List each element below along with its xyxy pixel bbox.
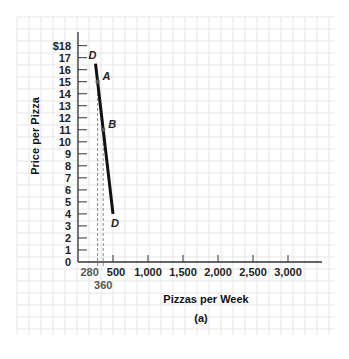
curve-label-start: D xyxy=(89,49,97,61)
x-tick-label: 3,000 xyxy=(274,266,302,278)
x-tick-label: 2,500 xyxy=(239,266,267,278)
y-tick-label: 4 xyxy=(65,208,72,220)
y-tick-label: 10 xyxy=(59,136,71,148)
y-tick-label: 7 xyxy=(65,172,71,184)
point-label-a: A xyxy=(102,70,111,82)
demand-chart: DD AB 01234567891011121314151617$185001,… xyxy=(0,0,349,359)
x-tick-label: 1,500 xyxy=(169,266,197,278)
point-b xyxy=(101,128,105,132)
y-tick-label: 9 xyxy=(65,148,71,160)
y-tick-label: 14 xyxy=(59,88,72,100)
y-tick-label: 2 xyxy=(65,232,71,244)
y-tick-label: 3 xyxy=(65,220,71,232)
y-tick-label: 8 xyxy=(65,160,71,172)
y-tick-label: 13 xyxy=(59,100,71,112)
curve-label-end: D xyxy=(111,217,119,229)
x-tick-label: 500 xyxy=(107,266,125,278)
y-tick-label: 0 xyxy=(65,256,71,268)
y-tick-label: 12 xyxy=(59,112,71,124)
y-tick-label: 17 xyxy=(59,52,71,64)
y-tick-label: 1 xyxy=(65,244,71,256)
y-tick-label: 5 xyxy=(65,196,71,208)
y-tick-label: 6 xyxy=(65,184,71,196)
demand-line xyxy=(96,64,114,214)
y-tick-label: 15 xyxy=(59,76,71,88)
x-tick-label: 2,000 xyxy=(204,266,232,278)
x-tick-label: 1,000 xyxy=(134,266,162,278)
y-tick-label: $18 xyxy=(53,40,71,52)
x-label-360: 360 xyxy=(94,279,112,291)
x-label-280: 280 xyxy=(80,266,98,278)
point-label-b: B xyxy=(108,118,116,130)
x-axis-title: Pizzas per Week xyxy=(163,293,249,305)
panel-label: (a) xyxy=(194,312,208,324)
y-tick-label: 16 xyxy=(59,64,71,76)
point-a xyxy=(95,80,99,84)
y-axis-title: Price per Pizza xyxy=(29,96,41,175)
y-tick-label: 11 xyxy=(59,124,71,136)
